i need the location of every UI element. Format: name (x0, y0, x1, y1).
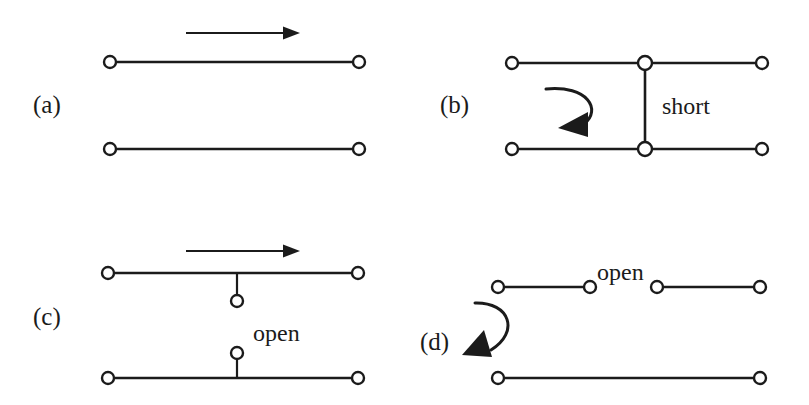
terminal-open-circle (754, 281, 766, 293)
terminal-junction-circle (638, 142, 652, 156)
terminal-open-circle (353, 143, 365, 155)
terminal-open-circle (492, 281, 504, 293)
terminal-open-circle (353, 56, 365, 68)
terminal-open-circle (651, 281, 663, 293)
open-annotation-label: open (597, 259, 644, 285)
panel-c: open (c) (33, 245, 364, 385)
panel-b: short (b) (440, 56, 768, 156)
panel-label-b: (b) (440, 91, 469, 119)
incident-wave-arrow (186, 245, 300, 258)
stub-open-end-circle (231, 295, 243, 307)
stub-open-end-circle (231, 347, 243, 359)
terminal-open-circle (584, 281, 596, 293)
panel-d: open (d) (420, 259, 766, 384)
terminal-open-circle (506, 143, 518, 155)
terminal-junction-circle (638, 56, 652, 70)
reflected-wave-curved-arrow (462, 303, 508, 357)
terminal-open-circle (104, 56, 116, 68)
terminal-open-circle (102, 372, 114, 384)
reflected-wave-curved-arrow (546, 89, 592, 137)
panel-label-a: (a) (33, 91, 61, 119)
panel-label-d: (d) (420, 328, 449, 356)
terminal-open-circle (756, 143, 768, 155)
terminal-open-circle (102, 267, 114, 279)
incident-wave-arrow (186, 27, 300, 40)
short-annotation-label: short (662, 93, 710, 119)
figure-root: (a) short (b) (0, 0, 809, 405)
terminal-open-circle (506, 57, 518, 69)
terminal-open-circle (492, 372, 504, 384)
panel-a: (a) (33, 27, 365, 156)
terminal-open-circle (352, 267, 364, 279)
transmission-line-figure: (a) short (b) (0, 0, 809, 405)
terminal-open-circle (104, 143, 116, 155)
terminal-open-circle (754, 372, 766, 384)
panel-label-c: (c) (33, 303, 61, 331)
open-annotation-label: open (253, 320, 300, 346)
terminal-open-circle (756, 57, 768, 69)
terminal-open-circle (352, 372, 364, 384)
